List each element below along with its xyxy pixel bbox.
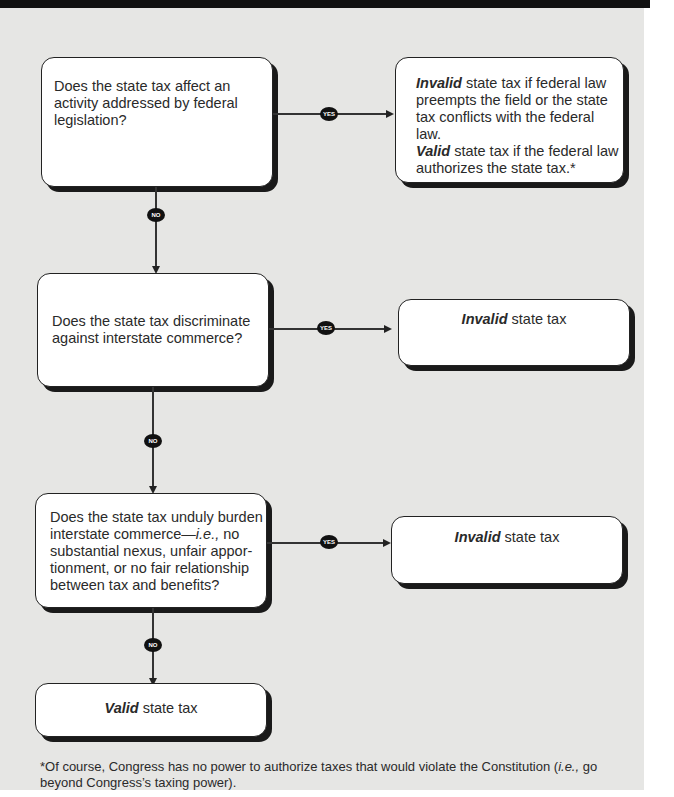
top-bar	[0, 0, 650, 8]
invalid-label: Invalid	[462, 311, 508, 327]
question-box-undue-burden: Does the state tax unduly burden interst…	[35, 493, 267, 608]
outcome-line: tax conflicts with the federal law.	[416, 109, 623, 143]
no-badge: NO	[144, 434, 162, 448]
invalid-label: Invalid	[455, 529, 501, 545]
invalid-label: Invalid	[416, 75, 462, 91]
question-box-discriminate: Does the state tax discriminate against …	[37, 273, 269, 387]
outcome-text: state tax if federal law	[462, 75, 606, 91]
yes-badge: YES	[320, 535, 338, 549]
question-line: substantial nexus, unfair appor-	[50, 543, 263, 560]
question-box-federal-legislation: Does the state tax affect an activity ad…	[41, 57, 273, 187]
valid-label: Valid	[416, 143, 450, 159]
connector-no-1	[155, 187, 157, 271]
outcome-text: state tax	[508, 311, 567, 327]
outcome-text: state tax	[501, 529, 560, 545]
yes-badge: YES	[320, 107, 338, 121]
question-line: between tax and benefits?	[50, 577, 263, 594]
footnote-text: *Of course, Congress has no power to aut…	[40, 759, 558, 774]
outcome-box-valid: Valid state tax	[35, 683, 267, 737]
outcome-box-undue-burden: Invalid state tax	[391, 516, 623, 584]
yes-badge: YES	[317, 321, 335, 335]
outcome-text: state tax	[139, 700, 198, 716]
outcome-box-federal: Invalid state tax if federal law preempt…	[395, 57, 624, 183]
question-line: Does the state tax affect an	[54, 78, 238, 95]
outcome-text: state tax if the federal law	[450, 143, 618, 159]
outcome-line: preempts the field or the state	[416, 92, 623, 109]
arrow-right-icon	[386, 110, 394, 118]
question-line: tionment, or no fair relationship	[50, 560, 263, 577]
question-line: against interstate commerce?	[52, 330, 250, 347]
footnote-italic: i.e.,	[558, 759, 579, 774]
arrow-right-icon	[384, 325, 392, 333]
question-line: legislation?	[54, 112, 238, 129]
no-badge: NO	[144, 638, 162, 652]
question-text: no	[219, 526, 239, 542]
footnote: *Of course, Congress has no power to aut…	[40, 759, 640, 791]
outcome-box-discriminate: Invalid state tax	[398, 299, 630, 366]
valid-label: Valid	[105, 700, 139, 716]
outcome-line: authorizes the state tax.*	[416, 160, 623, 177]
question-line: Does the state tax unduly burden	[50, 509, 263, 526]
question-line: activity addressed by federal	[54, 95, 238, 112]
arrow-right-icon	[383, 539, 391, 547]
question-text-italic: i.e.,	[196, 526, 219, 542]
question-text: interstate commerce—	[50, 526, 196, 542]
no-badge: NO	[147, 208, 165, 222]
question-line: Does the state tax discriminate	[52, 313, 250, 330]
